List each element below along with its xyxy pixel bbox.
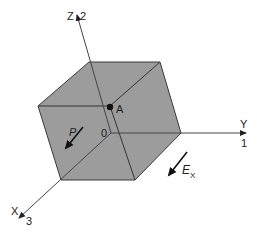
z-axis-label: Z [67,10,74,22]
y-axis-label: Y [240,118,248,130]
z-axis-index: 2 [80,10,86,22]
point-a-marker [107,104,113,110]
cube-body [38,62,181,180]
cube-diagram: Z 2 Y 1 X 3 0 A P E X [0,0,257,233]
ex-vector-subscript: X [190,171,196,180]
diagram-canvas: Z 2 Y 1 X 3 0 A P E X [0,0,257,233]
origin-label: 0 [101,127,107,139]
p-vector-label: P [69,126,77,138]
x-axis-label: X [11,205,19,217]
x-axis-index: 3 [26,215,32,227]
y-axis-index: 1 [241,137,247,149]
point-a-label: A [116,103,124,115]
